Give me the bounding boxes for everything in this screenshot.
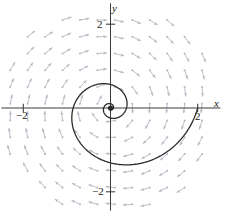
x-tick-label-minus-2: −2 xyxy=(16,110,28,121)
y-tick-label-2: 2 xyxy=(97,19,103,30)
vector-field xyxy=(8,17,206,206)
solution-trajectory xyxy=(72,84,198,165)
y-tick-label-minus-2: −2 xyxy=(92,186,104,197)
y-axis-label: y xyxy=(112,3,117,14)
phase-portrait-figure: y x 2 −2 −2 2 xyxy=(0,0,227,211)
x-axis-label: x xyxy=(214,98,219,109)
origin-point-marker xyxy=(108,105,113,110)
phase-portrait-canvas xyxy=(0,0,227,211)
x-tick-label-2: 2 xyxy=(195,111,201,122)
